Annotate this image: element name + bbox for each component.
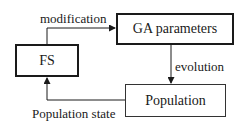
ga-parameters-node: GA parameters	[116, 13, 234, 45]
modification-edge-label: modification	[40, 12, 106, 25]
fs-node-label: FS	[39, 53, 55, 69]
fs-node: FS	[15, 44, 79, 77]
population-state-arrow	[47, 78, 125, 100]
population-node-label: Population	[145, 93, 206, 109]
population-state-edge-label: Population state	[32, 107, 115, 120]
ga-parameters-node-label: GA parameters	[133, 21, 217, 37]
modification-arrow	[47, 28, 115, 44]
feedback-diagram: FS GA parameters Population modification…	[0, 0, 247, 124]
evolution-edge-label: evolution	[175, 60, 224, 73]
population-node: Population	[125, 84, 226, 117]
